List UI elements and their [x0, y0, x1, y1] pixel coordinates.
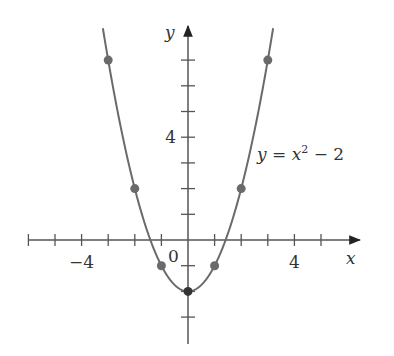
data-point — [237, 184, 246, 193]
data-point — [210, 261, 219, 270]
data-point — [157, 261, 166, 270]
data-point — [184, 287, 193, 296]
y-tick-label: 4 — [165, 127, 176, 147]
parabola-chart: −444 y = x2 − 2 x y 0 — [0, 0, 394, 356]
x-axis-label: x — [346, 248, 356, 268]
data-point — [130, 184, 139, 193]
equation-label: y = x2 − 2 — [256, 143, 344, 164]
x-tick-label: −4 — [69, 252, 94, 272]
y-axis-label: y — [164, 22, 175, 42]
axes — [28, 26, 360, 344]
origin-label: 0 — [168, 246, 179, 266]
x-tick-label: 4 — [289, 252, 300, 272]
data-point — [263, 56, 272, 65]
data-point — [104, 56, 113, 65]
axis-ticks — [28, 60, 321, 317]
